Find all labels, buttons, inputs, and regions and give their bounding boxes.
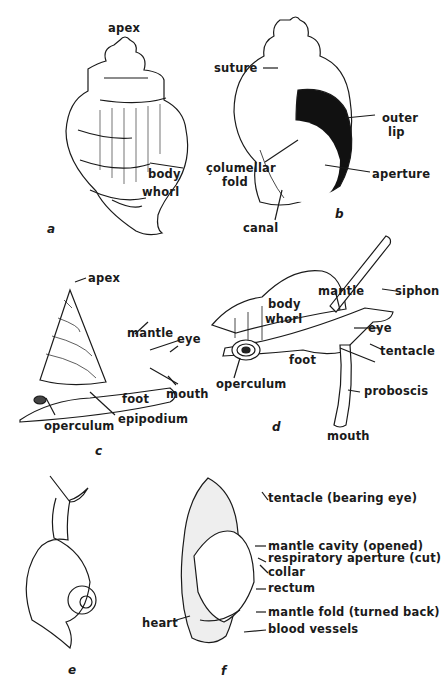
label-d-siphon: siphon — [395, 285, 440, 298]
shell-d-drawing — [212, 236, 393, 427]
label-f-blood-vessels: blood vessels — [268, 623, 358, 636]
label-d-foot: foot — [289, 354, 316, 367]
label-c-epipodium: epipodium — [118, 413, 188, 426]
label-c-operculum: operculum — [44, 420, 115, 433]
shell-c-drawing — [20, 290, 180, 422]
label-b-canal: canal — [243, 222, 278, 235]
shell-a-drawing — [66, 37, 188, 235]
label-f-mantle-fold: mantle fold (turned back) — [268, 606, 440, 619]
snail-f-drawing — [181, 478, 254, 643]
label-d-whorl: whorl — [265, 313, 302, 326]
snail-e-drawing — [26, 476, 96, 648]
label-c-mantle: mantle — [127, 327, 173, 340]
label-b-columellar: çolumellar — [206, 162, 276, 175]
label-b-aperture: aperture — [372, 168, 430, 181]
label-f-heart: heart — [142, 617, 178, 630]
label-f-collar: collar — [268, 566, 305, 579]
label-d-operculum: operculum — [216, 378, 287, 391]
label-d-mouth: mouth — [327, 430, 370, 443]
figure-letter-a: a — [47, 222, 55, 236]
figure-letter-d: d — [272, 420, 281, 434]
label-a-body: body — [148, 168, 181, 181]
label-b-fold: fold — [222, 176, 248, 189]
label-d-body: body — [268, 298, 301, 311]
label-a-apex: apex — [108, 22, 140, 35]
label-f-respiratory-aperture: respiratory aperture (cut) — [268, 552, 441, 565]
label-d-mantle: mantle — [318, 285, 364, 298]
label-c-apex: apex — [88, 272, 120, 285]
label-b-lip: lip — [388, 126, 405, 139]
label-f-rectum: rectum — [268, 582, 315, 595]
label-d-eye: eye — [368, 322, 392, 335]
figure-letter-c: c — [95, 444, 102, 458]
label-a-whorl: whorl — [142, 186, 179, 199]
figure-letter-f: f — [221, 664, 226, 678]
label-c-eye: eye — [177, 333, 201, 346]
label-b-outer: outer — [382, 112, 418, 125]
label-f-tentacle: tentacle (bearing eye) — [268, 492, 417, 505]
label-c-foot: foot — [122, 393, 149, 406]
shell-b-drawing — [234, 17, 352, 205]
figure-letter-b: b — [335, 207, 344, 221]
label-c-mouth: mouth — [166, 388, 209, 401]
label-b-suture: suture — [214, 62, 257, 75]
label-d-tentacle: tentacle — [380, 345, 435, 358]
label-d-proboscis: proboscis — [364, 385, 428, 398]
figure-letter-e: e — [68, 663, 76, 677]
